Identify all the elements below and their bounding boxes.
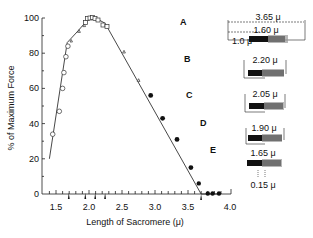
x-axis xyxy=(42,189,231,194)
y-axis xyxy=(42,18,45,194)
diagram-e-gap: 0.15 μ xyxy=(250,180,275,190)
y-tick-40: 40 xyxy=(29,119,39,129)
diagram-d-width: 1.90 μ xyxy=(251,123,276,133)
diagram-a-left: 1.0 μ xyxy=(232,36,252,46)
x-tick-3-0: 3.0 xyxy=(149,202,162,212)
x-tick-4-0: 4.0 xyxy=(224,202,237,212)
x-axis-label: Length of Sacromere (μ) xyxy=(86,217,184,227)
label-c: C xyxy=(186,90,193,100)
y-tick-100: 100 xyxy=(24,13,39,23)
diagram-e-width: 1.65 μ xyxy=(250,148,275,158)
label-d: D xyxy=(200,118,207,128)
y-tick-labels: 100 80 60 40 20 0 xyxy=(24,13,39,199)
series-open-squares xyxy=(83,16,109,29)
y-axis-label: % of Maximum Force xyxy=(6,65,16,150)
diagram-a-inner: 1.60 μ xyxy=(253,25,278,35)
diagram-e xyxy=(247,159,282,177)
label-e: E xyxy=(210,145,216,155)
y-tick-60: 60 xyxy=(29,83,39,93)
x-tick-labels: 1.5 2.0 2.5 3.0 3.5 4.0 xyxy=(50,202,237,212)
diagram-c-width: 2.05 μ xyxy=(252,89,277,99)
x-tick-2-0: 2.0 xyxy=(83,202,96,212)
label-a: A xyxy=(180,17,187,27)
force-length-chart: 100 80 60 40 20 0 1.5 2.0 2.5 3.0 3.5 4.… xyxy=(0,0,313,238)
diagram-a-total: 3.65 μ xyxy=(255,12,280,22)
x-tick-1-5: 1.5 xyxy=(50,202,63,212)
diagram-b-width: 2.20 μ xyxy=(252,55,277,65)
label-b: B xyxy=(184,54,191,64)
y-tick-0: 0 xyxy=(34,189,39,199)
x-tick-3-5: 3.5 xyxy=(182,202,195,212)
x-tick-2-5: 2.5 xyxy=(116,202,129,212)
series-open-triangles xyxy=(70,24,140,82)
y-tick-80: 80 xyxy=(29,48,39,58)
y-tick-20: 20 xyxy=(29,154,39,164)
